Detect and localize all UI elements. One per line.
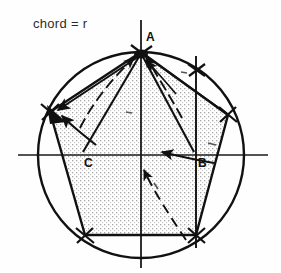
node-a [134,50,148,59]
point-label-b: B [198,156,207,170]
chord-equals-r-caption: chord = r [33,16,87,31]
point-label-a: A [146,30,155,44]
geometry-diagram [0,0,281,273]
figure-canvas: chord = r A B C [0,0,281,273]
point-label-c: C [84,156,93,170]
